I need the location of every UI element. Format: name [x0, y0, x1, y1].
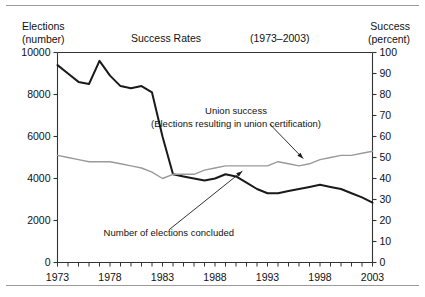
right-tick-100: 100: [380, 46, 398, 58]
left-tick-4000: 4000: [27, 172, 51, 184]
data-series-group: [58, 61, 373, 203]
x-tick-2003: 2003: [361, 271, 385, 283]
right-tick-10: 10: [380, 235, 392, 247]
series-line-0: [58, 61, 373, 203]
right-tick-0: 0: [380, 256, 386, 268]
right-tick-80: 80: [380, 88, 392, 100]
left-tick-2000: 2000: [27, 214, 51, 226]
union-success-arrow: [270, 124, 304, 159]
right-tick-30: 30: [380, 193, 392, 205]
left-tick-6000: 6000: [27, 130, 51, 142]
x-tick-1973: 1973: [46, 271, 70, 283]
x-tick-1988: 1988: [203, 271, 227, 283]
union-success-label-line1: Union success: [205, 105, 267, 116]
left-tick-0: 0: [45, 256, 51, 268]
series-line-1: [58, 151, 373, 178]
right-tick-60: 60: [380, 130, 392, 142]
elections-concluded-label: Number of elections concluded: [104, 227, 234, 238]
x-tick-1998: 1998: [308, 271, 332, 283]
left-tick-8000: 8000: [27, 88, 51, 100]
left-axis-tick-labels: 0200040006000800010000: [21, 46, 50, 268]
x-axis-tick-labels: 1973197819831988199319982003: [46, 271, 385, 283]
x-tick-1983: 1983: [151, 271, 175, 283]
right-tick-20: 20: [380, 214, 392, 226]
right-tick-40: 40: [380, 172, 392, 184]
right-axis-tick-labels: 0102030405060708090100: [380, 46, 398, 268]
left-tick-10000: 10000: [21, 46, 50, 58]
right-tick-90: 90: [380, 67, 392, 79]
union-success-label-line2: (Elections resulting in union certificat…: [151, 118, 321, 129]
x-tick-1978: 1978: [98, 271, 122, 283]
right-tick-50: 50: [380, 151, 392, 163]
right-tick-70: 70: [380, 109, 392, 121]
annotations-group: Union success(Elections resulting in uni…: [104, 105, 321, 238]
line-chart: 0200040006000800010000 01020304050607080…: [0, 0, 425, 297]
x-tick-1993: 1993: [256, 271, 280, 283]
